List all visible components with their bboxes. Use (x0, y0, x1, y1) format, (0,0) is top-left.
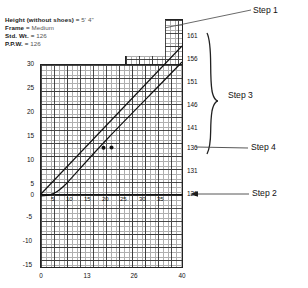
info-line-ppw: P.P.W. = 126 (5, 40, 165, 48)
y-axis-left-tick-20: 20 (12, 109, 34, 115)
y-axis-left-tick-25: 25 (12, 85, 34, 91)
y-axis-right-tick-146: 146 (187, 102, 209, 108)
grid-medium-main (41, 65, 182, 267)
y-axis-left-tick-10: 10 (12, 157, 34, 163)
x-axis-tick-40: 40 (172, 273, 192, 279)
x-axis-tick-0: 0 (31, 273, 51, 279)
y-axis-left-tick-5: 5 (12, 181, 34, 187)
info-text-block: Height (without shoes) = 5' 4" Frame = M… (5, 16, 165, 56)
info-value-ppw: 126 (30, 40, 41, 47)
inner-x-tick-30: 30 (139, 196, 146, 202)
info-label-ppw: P.P.W. = (5, 40, 28, 47)
info-line-std-wt: Std. Wt. = 126 (5, 32, 165, 40)
y-axis-right-tick-141: 141 (187, 125, 209, 131)
x-axis-tick-13: 13 (77, 273, 97, 279)
annotation-step-2: Step 2 (252, 189, 277, 198)
y-axis-right-tick-131: 131 (187, 168, 209, 174)
annotation-step-4: Step 4 (251, 143, 276, 152)
y-axis-left-tick-neg5: -5 (10, 214, 32, 220)
info-line-height: Height (without shoes) = 5' 4" (5, 16, 165, 24)
y-axis-right-tick-126: 126 (187, 191, 209, 197)
inner-x-tick-25: 25 (120, 196, 127, 202)
y-axis-right-tick-161: 161 (187, 33, 209, 39)
info-label-height: Height (without shoes) = (5, 16, 79, 23)
y-axis-left-tick-neg15: -15 (10, 262, 32, 268)
plot-area (40, 64, 183, 268)
inner-x-tick-35: 35 (157, 196, 164, 202)
step-3-brace (207, 33, 218, 154)
inner-x-tick-5: 5 (51, 196, 54, 202)
info-label-frame: Frame = (5, 24, 30, 31)
y-axis-left-tick-0: 0 (12, 192, 34, 198)
annotation-step-3: Step 3 (228, 91, 253, 100)
y-axis-left-tick-30: 30 (12, 61, 34, 67)
y-axis-right-tick-151: 151 (187, 79, 209, 85)
info-value-frame: Medium (31, 24, 54, 31)
chart-figure: Height (without shoes) = 5' 4" Frame = M… (0, 0, 308, 288)
info-label-std-wt: Std. Wt. = (5, 32, 34, 39)
annotation-step-1: Step 1 (253, 6, 278, 15)
y-axis-right-tick-156: 156 (187, 56, 209, 62)
y-axis-right-tick-136: 136 (187, 145, 209, 151)
y-axis-left-tick-neg10: -10 (10, 238, 32, 244)
info-value-height: 5' 4" (81, 16, 93, 23)
x-axis-tick-26: 26 (124, 273, 144, 279)
inner-x-tick-15: 15 (84, 196, 91, 202)
y-axis-left-tick-15: 15 (12, 133, 34, 139)
info-line-frame: Frame = Medium (5, 24, 165, 32)
info-value-std-wt: 126 (36, 32, 47, 39)
inner-x-tick-20: 20 (102, 196, 109, 202)
inner-x-tick-10: 10 (66, 196, 73, 202)
